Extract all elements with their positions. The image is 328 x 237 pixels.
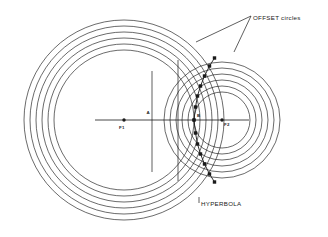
hyperbola-point-marker-11	[203, 162, 206, 165]
focus-1-label: F1	[119, 125, 125, 130]
hyperbola-point-marker-13	[213, 180, 216, 183]
hyperbola-point-marker-3	[203, 74, 206, 77]
hyperbola-point-marker-5	[196, 94, 199, 97]
point-b-label: B	[197, 113, 200, 118]
hyperbola-point-marker-4	[199, 84, 202, 87]
diagram-root: OFFSET circles HYPERBOLA F1 A B F2	[0, 0, 328, 237]
hyperbola-point-marker-1	[213, 56, 216, 59]
hyperbola-point-marker-6	[194, 105, 197, 108]
hyperbola-point-marker-10	[199, 152, 202, 155]
leader-line-1	[196, 16, 251, 42]
focus-2-label: F2	[224, 122, 230, 127]
hyperbola-label: HYPERBOLA	[201, 200, 242, 207]
hyperbola-point-marker-2	[208, 64, 211, 67]
vertex-a-label: A	[147, 110, 150, 115]
leader-line-2	[234, 16, 251, 52]
hyperbola-point-marker-9	[196, 142, 199, 145]
diagram-canvas	[0, 0, 328, 237]
point-marker-b	[192, 118, 195, 121]
focus-marker-f1	[122, 118, 125, 121]
vertical-construction-lines	[152, 60, 178, 181]
hyperbola-point-marker-8	[194, 131, 197, 134]
offset-circles-label: OFFSET circles	[253, 14, 301, 21]
hyperbola-point-marker-12	[208, 172, 211, 175]
